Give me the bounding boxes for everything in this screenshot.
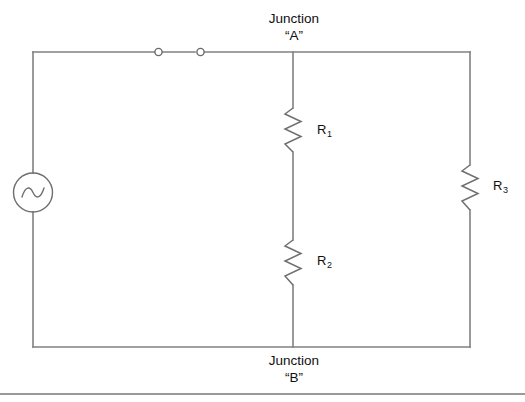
ac-source[interactable] <box>14 173 53 212</box>
resistor-r3-label-sub: 3 <box>503 185 508 195</box>
resistor-icon <box>285 240 301 285</box>
switch-terminal-right-icon[interactable] <box>197 48 204 55</box>
circuit-diagram: Junction “A” Junction “B” R1 R2 R3 <box>0 0 525 402</box>
resistor-r3-label: R3 <box>493 178 507 193</box>
resistor-r1-label: R1 <box>317 122 331 137</box>
switch-terminal-left-icon[interactable] <box>155 48 162 55</box>
resistor-r2-label-sub: 2 <box>327 260 332 270</box>
junction-b-line1: Junction <box>246 352 342 369</box>
resistor-r1-label-sub: 1 <box>327 129 332 139</box>
resistor-r1[interactable] <box>285 108 301 152</box>
resistor-r3[interactable] <box>462 165 478 210</box>
resistor-r2-label: R2 <box>317 253 331 268</box>
circuit-svg <box>0 0 525 402</box>
junction-a-line1: Junction <box>246 10 342 27</box>
resistor-r2-label-base: R <box>317 253 326 268</box>
junction-a-label: Junction “A” <box>246 10 342 44</box>
resistor-icon <box>285 108 301 152</box>
junction-b-label: Junction “B” <box>246 352 342 386</box>
junction-a-line2: “A” <box>246 27 342 44</box>
resistor-r2[interactable] <box>285 240 301 285</box>
resistor-icon <box>462 165 478 210</box>
resistor-r3-label-base: R <box>493 178 502 193</box>
junction-b-line2: “B” <box>246 369 342 386</box>
ac-source-icon <box>22 188 44 197</box>
resistor-r1-label-base: R <box>317 122 326 137</box>
